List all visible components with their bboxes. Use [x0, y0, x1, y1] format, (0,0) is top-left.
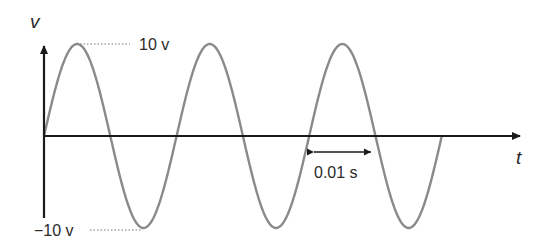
sine-wave-diagram: v t 10 v −10 v 0.01 s — [0, 0, 544, 247]
y-axis-label: v — [30, 11, 41, 32]
x-axis-label: t — [516, 147, 522, 168]
trough-label: −10 v — [34, 222, 74, 239]
half-period-label: 0.01 s — [314, 164, 358, 181]
peak-label: 10 v — [139, 36, 169, 53]
